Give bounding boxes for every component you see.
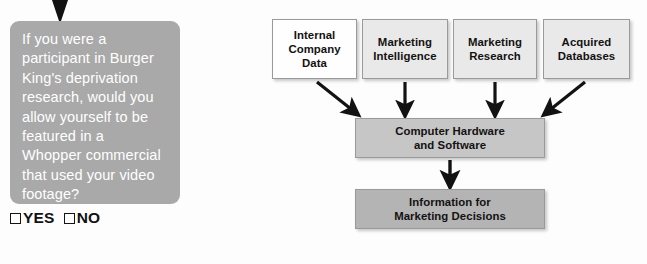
node-marketing-intelligence: Marketing Intelligence [362, 19, 448, 79]
checkbox-yes-icon[interactable] [10, 213, 21, 224]
survey-option-no-label: NO [77, 209, 101, 227]
survey-option-no[interactable]: NO [64, 209, 101, 227]
node-computer-hardware-and-software: Computer Hardware and Software [355, 118, 545, 158]
survey-option-yes[interactable]: YES [10, 209, 55, 227]
node-information-for-marketing-decisions: Information for Marketing Decisions [355, 189, 545, 229]
node-internal-company-data: Internal Company Data [272, 19, 357, 79]
node-marketing-research: Marketing Research [453, 19, 537, 79]
checkbox-no-icon[interactable] [64, 213, 75, 224]
survey-question-bubble: If you were a participant in Burger King… [10, 21, 180, 204]
marketing-information-system-diagram: Internal Company Data Marketing Intellig… [255, 0, 647, 264]
survey-options: YES NO [10, 209, 100, 227]
survey-option-yes-label: YES [23, 209, 55, 227]
arrow-acquired-databases [546, 82, 585, 113]
arrow-internal-company-data [317, 82, 356, 113]
survey-panel: If you were a participant in Burger King… [0, 0, 250, 264]
survey-question-text: If you were a participant in Burger King… [22, 30, 168, 205]
node-acquired-databases: Acquired Databases [543, 19, 630, 79]
